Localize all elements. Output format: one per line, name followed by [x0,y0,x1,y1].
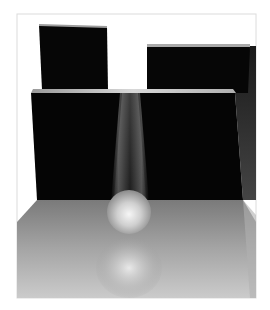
back-right-block [147,46,250,93]
front-wall-top [31,89,236,93]
rendered-scene [0,0,270,310]
back-left-block [39,25,108,90]
back-right-block-top [147,44,250,47]
sphere [107,190,151,234]
sphere-reflection [96,238,162,298]
